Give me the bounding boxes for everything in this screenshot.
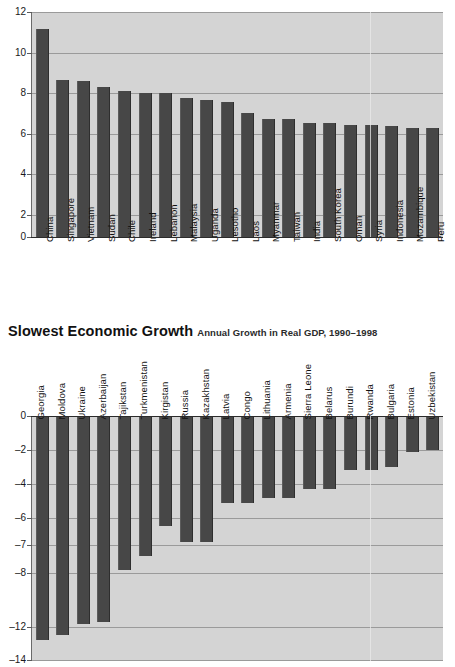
category-label: Georgia [36, 385, 46, 420]
plot-area-top [31, 12, 443, 237]
y-axis-tick-label: 6 [0, 129, 26, 139]
y-axis-tick-label: 12 [0, 7, 26, 17]
plot-inner-bottom [32, 416, 443, 661]
category-label: Sierra Leone [303, 364, 313, 420]
page-seam [370, 12, 371, 237]
gridline [32, 660, 443, 661]
category-label: China [45, 217, 55, 242]
section-title: Slowest Economic GrowthAnnual Growth in … [8, 322, 377, 340]
y-axis-tick-label: 4 [0, 169, 26, 179]
bar [118, 416, 131, 570]
y-axis-tick-label: 0 [0, 232, 26, 242]
category-label: Ukraine [77, 386, 87, 419]
bar [262, 416, 275, 498]
bar [241, 416, 254, 503]
bar [139, 416, 152, 556]
gridline [32, 573, 443, 574]
category-label: Oman [354, 216, 364, 242]
category-label: South Korea [333, 188, 343, 242]
category-label: Kirgistan [159, 382, 169, 420]
gridline [32, 174, 443, 175]
y-axis-tick-mark [27, 12, 32, 13]
bar [221, 416, 234, 503]
category-label: Bulgaria [385, 384, 395, 420]
category-label: Chile [127, 220, 137, 242]
bar [241, 113, 254, 237]
bar [56, 416, 69, 635]
bar [77, 416, 90, 624]
category-label: Tajikstan [118, 382, 128, 420]
bar [159, 416, 172, 526]
gridline [32, 518, 443, 519]
y-axis-tick-mark [27, 545, 32, 546]
bar [406, 416, 419, 452]
bar [97, 416, 110, 622]
y-axis-tick-label: –6 [0, 513, 26, 523]
category-label: Laos [251, 221, 261, 242]
category-label: Burundi [344, 386, 354, 419]
y-axis-tick-label: –4 [0, 479, 26, 489]
bar [426, 416, 439, 450]
section-title-main: Slowest Economic Growth [8, 323, 193, 339]
y-axis-tick-label: –14 [0, 655, 26, 665]
y-axis-tick-label: 0 [0, 411, 26, 421]
y-axis-tick-mark [27, 450, 32, 451]
y-axis-tick-mark [27, 215, 32, 216]
category-label: Moldova [56, 383, 66, 420]
bar [36, 29, 49, 237]
section-title-subtitle: Annual Growth in Real GDP, 1990–1998 [197, 327, 377, 338]
plot-inner-top [32, 12, 443, 237]
gridline [32, 545, 443, 546]
bar [303, 123, 316, 237]
gridline [32, 484, 443, 485]
category-label: Belarus [323, 387, 333, 420]
bar [36, 416, 49, 640]
fastest-economic-growth-chart: 121086420 ChinaSingaporeVietnamSudanChil… [0, 0, 455, 316]
gridline [32, 134, 443, 135]
y-axis-tick-label: –8 [0, 568, 26, 578]
baseline-bottom [31, 416, 443, 417]
gridline [32, 93, 443, 94]
category-label: Indonesia [395, 200, 405, 242]
y-axis-tick-mark [27, 627, 32, 628]
slowest-economic-growth-chart: 0–2–4–6–7–8–12–14 GeorgiaMoldovaUkraineA… [0, 344, 455, 667]
category-label: Peru [436, 222, 446, 242]
category-label: India [312, 221, 322, 242]
gridline [32, 12, 443, 13]
category-label: Myanmar [271, 202, 281, 242]
gridline [32, 627, 443, 628]
category-label: Azerbaijan [97, 374, 107, 420]
bar [118, 91, 131, 237]
bar [282, 416, 295, 498]
gridline [32, 53, 443, 54]
gridline [32, 450, 443, 451]
y-axis-tick-label: 10 [0, 48, 26, 58]
category-label: Turkmenistan [139, 361, 149, 419]
baseline-top [31, 237, 443, 238]
category-label: Singapore [66, 198, 76, 242]
page-seam [370, 416, 371, 661]
category-label: Rwanda [365, 384, 375, 419]
y-axis-tick-mark [27, 573, 32, 574]
bar [200, 416, 213, 542]
y-axis-tick-mark [27, 53, 32, 54]
bar [385, 416, 398, 467]
bar [180, 416, 193, 542]
category-label: Armenia [282, 383, 292, 419]
y-axis-tick-mark [27, 484, 32, 485]
y-axis-tick-mark [27, 660, 32, 661]
category-label: Estonia [406, 387, 416, 419]
category-label: Uzbekistan [426, 372, 436, 420]
y-axis-tick-label: –12 [0, 622, 26, 632]
category-label: Lithuania [262, 380, 272, 419]
y-axis-tick-mark [27, 174, 32, 175]
y-axis-tick-label: –7 [0, 540, 26, 550]
y-axis-tick-mark [27, 134, 32, 135]
category-label: Mozambique [415, 187, 425, 242]
bar [365, 416, 378, 470]
y-axis-tick-label: 8 [0, 88, 26, 98]
bar [303, 416, 316, 489]
y-axis-tick-label: 2 [0, 210, 26, 220]
bar [344, 416, 357, 470]
y-axis-tick-mark [27, 518, 32, 519]
